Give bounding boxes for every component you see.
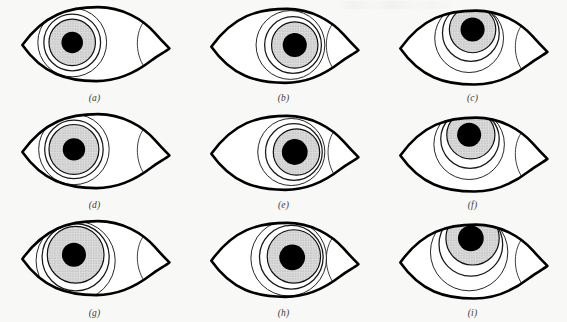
- eye-diagram-e: [191, 109, 376, 195]
- panel-label-i-text: (i): [468, 308, 478, 318]
- panel-label-b: (b): [189, 94, 378, 104]
- pupil-i: [457, 225, 483, 251]
- eye-diagram-d: [2, 109, 187, 195]
- eye-diagram-b: [191, 2, 376, 88]
- pupil-h: [279, 244, 305, 270]
- panel-label-e-text: (e): [278, 200, 289, 210]
- panel-label-b-text: (b): [278, 93, 290, 103]
- panel-label-a: (a): [0, 94, 189, 104]
- pupil-a: [61, 32, 83, 53]
- eye-panel-f: (f): [378, 107, 567, 214]
- pupil-c: [460, 17, 484, 41]
- pupil-g: [61, 243, 85, 267]
- panel-label-h-text: (h): [278, 308, 290, 318]
- eye-diagram-g: [2, 216, 187, 302]
- pupil-d: [62, 138, 84, 160]
- panel-label-i: (i): [378, 309, 567, 319]
- panel-label-d-text: (d): [89, 200, 101, 210]
- pupil-e: [281, 139, 307, 165]
- eye-panel-b: (b): [189, 0, 378, 107]
- eye-diagram-c: [380, 2, 565, 88]
- eye-diagram-a: [2, 2, 187, 88]
- panel-label-d: (d): [0, 201, 189, 211]
- eye-panel-i: (i): [378, 214, 567, 322]
- eye-diagram-grid: (a) (b): [0, 0, 567, 322]
- figure-root: (a) (b): [0, 0, 567, 322]
- pupil-f: [457, 123, 481, 147]
- panel-label-g-text: (g): [89, 308, 101, 318]
- panel-label-c: (c): [378, 94, 567, 104]
- eye-panel-g: (g): [0, 214, 189, 322]
- panel-label-h: (h): [189, 309, 378, 319]
- eye-diagram-f: [380, 109, 565, 195]
- panel-label-f-text: (f): [468, 200, 478, 210]
- eye-diagram-h: [191, 216, 376, 302]
- eye-diagram-i: [380, 216, 565, 302]
- eye-panel-c: (c): [378, 0, 567, 107]
- panel-label-e: (e): [189, 201, 378, 211]
- eye-panel-d: (d): [0, 107, 189, 214]
- panel-label-c-text: (c): [467, 93, 478, 103]
- eye-panel-h: (h): [189, 214, 378, 322]
- panel-label-f: (f): [378, 201, 567, 211]
- pupil-b: [282, 33, 306, 57]
- panel-label-a-text: (a): [89, 93, 101, 103]
- eye-panel-e: (e): [189, 107, 378, 214]
- panel-label-g: (g): [0, 309, 189, 319]
- eye-panel-a: (a): [0, 0, 189, 107]
